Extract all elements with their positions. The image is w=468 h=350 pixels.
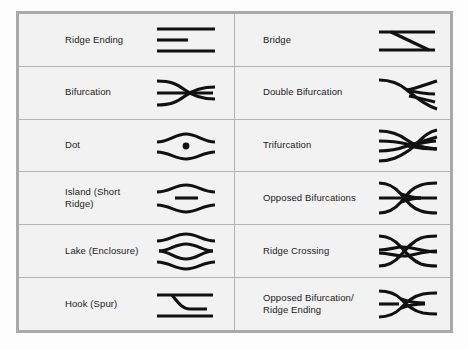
minutia-label: Opposed Bifurcation/ Ridge Ending	[235, 292, 363, 317]
table-row: Dot Trifurcation	[19, 119, 450, 172]
table-cell-hook-spur: Hook (Spur)	[19, 278, 235, 330]
minutia-label: Bridge	[235, 34, 363, 47]
table-cell-opposed-bifurcations: Opposed Bifurcations	[235, 172, 451, 225]
bridge-icon	[373, 17, 443, 63]
minutia-label: Ridge Ending	[19, 34, 147, 47]
minutia-label: Island (Short Ridge)	[19, 186, 147, 211]
ridge-crossing-icon	[373, 228, 443, 274]
minutiae-table-container: Ridge Ending Bridge	[16, 11, 453, 333]
minutia-label: Hook (Spur)	[19, 298, 147, 311]
bifurcation-icon	[151, 70, 221, 116]
ridge-ending-icon	[151, 17, 221, 63]
minutiae-table: Ridge Ending Bridge	[19, 14, 450, 330]
table-cell-double-bifurcation: Double Bifurcation	[235, 66, 451, 119]
table-row: Ridge Ending Bridge	[19, 14, 450, 66]
table-row: Lake (Enclosure) Ridge C	[19, 225, 450, 278]
double-bifurcation-icon	[373, 70, 443, 116]
table-cell-lake-enclosure: Lake (Enclosure)	[19, 225, 235, 278]
minutia-label: Bifurcation	[19, 86, 147, 99]
table-row: Hook (Spur) Opposed Bifurcation/ Ridge E…	[19, 278, 450, 330]
trifurcation-icon	[373, 123, 443, 169]
table-cell-ridge-ending: Ridge Ending	[19, 14, 235, 66]
table-cell-ridge-crossing: Ridge Crossing	[235, 225, 451, 278]
table-cell-bifurcation: Bifurcation	[19, 66, 235, 119]
table-cell-bridge: Bridge	[235, 14, 451, 66]
opposed-bifurcations-icon	[373, 175, 443, 221]
minutia-label: Opposed Bifurcations	[235, 192, 363, 205]
opposed-bifurcation-ridge-ending-icon	[373, 281, 443, 327]
minutiae-table-figure: Ridge Ending Bridge	[0, 0, 468, 350]
island-short-ridge-icon	[151, 175, 221, 221]
minutia-label: Trifurcation	[235, 139, 363, 152]
table-cell-opposed-bifurcation-ridge-ending: Opposed Bifurcation/ Ridge Ending	[235, 278, 451, 330]
dot-icon	[151, 123, 221, 169]
table-row: Bifurcation Double Bifurcation	[19, 66, 450, 119]
minutia-label: Lake (Enclosure)	[19, 245, 147, 258]
table-cell-trifurcation: Trifurcation	[235, 119, 451, 172]
hook-spur-icon	[151, 281, 221, 327]
minutia-label: Dot	[19, 139, 147, 152]
table-cell-island-short-ridge: Island (Short Ridge)	[19, 172, 235, 225]
minutia-label: Double Bifurcation	[235, 86, 363, 99]
lake-enclosure-icon	[151, 228, 221, 274]
minutia-label: Ridge Crossing	[235, 245, 363, 258]
table-row: Island (Short Ridge) Opposed Bifurcation…	[19, 172, 450, 225]
table-cell-dot: Dot	[19, 119, 235, 172]
